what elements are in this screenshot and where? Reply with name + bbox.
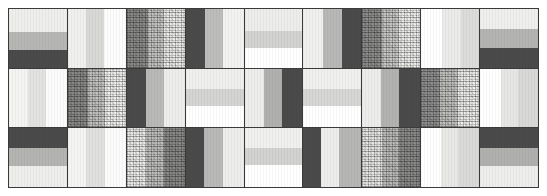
- patch-band: [9, 128, 67, 148]
- patch-band: [88, 69, 105, 128]
- patch-band: [148, 9, 164, 68]
- patch-band: [9, 32, 67, 50]
- patch-band: [86, 9, 103, 68]
- patch-band: [264, 69, 281, 128]
- patch-band: [399, 128, 420, 187]
- patch-band: [146, 128, 163, 187]
- patch-r3c3: [127, 128, 185, 187]
- patch-r3c1: [9, 128, 67, 187]
- patch-band: [164, 128, 185, 187]
- patch-band: [323, 9, 342, 68]
- patch-band: [127, 9, 148, 68]
- patch-band: [223, 128, 244, 187]
- patch-band: [68, 9, 87, 68]
- patch-band: [28, 69, 47, 128]
- patch-band: [421, 128, 441, 187]
- patch-r1c5: [245, 9, 303, 68]
- patch-grid: [8, 8, 539, 188]
- patch-band: [458, 128, 479, 187]
- patch-band: [303, 9, 323, 68]
- patch-r2c5: [245, 69, 303, 128]
- patch-band: [9, 50, 67, 68]
- patch-r1c4: [186, 9, 244, 68]
- patch-band: [127, 69, 147, 128]
- patch-r3c4: [186, 128, 244, 187]
- patch-r3c7: [362, 128, 420, 187]
- patch-band: [104, 9, 126, 68]
- patch-band: [442, 9, 461, 68]
- patch-band: [303, 106, 361, 127]
- patch-r1c6: [303, 9, 361, 68]
- patch-r2c6: [303, 69, 361, 128]
- patch-band: [382, 128, 399, 187]
- patch-band: [164, 9, 185, 68]
- patch-band: [480, 128, 538, 148]
- patch-band: [245, 48, 303, 68]
- patch-band: [501, 69, 518, 128]
- patch-band: [245, 165, 303, 187]
- patch-r1c3: [127, 9, 185, 68]
- patch-r2c7: [362, 69, 420, 128]
- patch-band: [480, 9, 538, 29]
- patch-band: [186, 69, 244, 89]
- patch-band: [461, 9, 480, 68]
- patch-band: [382, 9, 399, 68]
- patch-band: [164, 69, 185, 128]
- patch-band: [186, 128, 205, 187]
- patch-r2c4: [186, 69, 244, 128]
- patch-r1c1: [9, 9, 67, 68]
- patch-band: [381, 69, 400, 128]
- patch-r1c2: [68, 9, 126, 68]
- patch-band: [127, 128, 147, 187]
- patch-band: [105, 69, 126, 128]
- patch-band: [223, 9, 244, 68]
- patch-band: [342, 9, 362, 68]
- patch-band: [480, 48, 538, 68]
- patch-band: [245, 128, 303, 148]
- patch-band: [9, 166, 67, 187]
- patch-band: [186, 9, 206, 68]
- patch-band: [480, 166, 538, 187]
- patch-band: [303, 89, 361, 107]
- patch-band: [321, 128, 340, 187]
- patch-band: [68, 69, 88, 128]
- patch-band: [46, 69, 67, 128]
- patch-band: [9, 69, 28, 128]
- patch-band: [480, 69, 501, 128]
- patch-band: [245, 9, 303, 31]
- patch-band: [205, 9, 222, 68]
- patch-band: [245, 69, 265, 128]
- patch-grid-canvas: [0, 0, 547, 196]
- patch-band: [441, 128, 458, 187]
- patch-band: [9, 9, 67, 32]
- patch-band: [480, 29, 538, 48]
- patch-band: [421, 69, 440, 128]
- patch-band: [282, 69, 303, 128]
- patch-r2c2: [68, 69, 126, 128]
- patch-band: [186, 106, 244, 127]
- patch-r3c5: [245, 128, 303, 187]
- patch-band: [362, 9, 382, 68]
- patch-band: [339, 128, 361, 187]
- patch-r3c8: [421, 128, 479, 187]
- patch-r1c8: [421, 9, 479, 68]
- patch-band: [9, 148, 67, 166]
- patch-r3c2: [68, 128, 126, 187]
- patch-r2c8: [421, 69, 479, 128]
- patch-band: [186, 89, 244, 107]
- patch-band: [440, 69, 459, 128]
- patch-band: [303, 69, 361, 89]
- patch-band: [245, 148, 303, 164]
- patch-band: [362, 69, 381, 128]
- patch-band: [303, 128, 320, 187]
- patch-r2c9: [480, 69, 538, 128]
- patch-band: [399, 69, 420, 128]
- patch-band: [146, 69, 163, 128]
- patch-band: [105, 128, 126, 187]
- patch-band: [421, 9, 442, 68]
- patch-band: [518, 69, 538, 128]
- patch-band: [204, 128, 223, 187]
- patch-band: [86, 128, 105, 187]
- patch-r2c3: [127, 69, 185, 128]
- patch-r3c9: [480, 128, 538, 187]
